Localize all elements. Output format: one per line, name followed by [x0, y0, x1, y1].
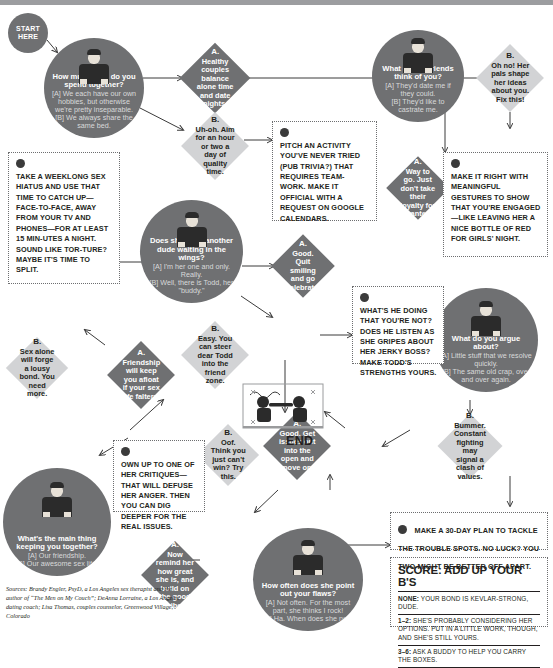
end-illustration	[237, 380, 329, 442]
tip-text: MAKE IT RIGHT WITH MEANINGFUL GESTURES T…	[451, 172, 541, 245]
outcome-text: Healthy couples balance alone time and d…	[194, 58, 236, 109]
illustration-mirror	[253, 532, 363, 575]
score-text: ASK A BUDDY TO HELP YOU CARRY THE BOXES.	[398, 648, 526, 663]
tip-pitch-activity: PITCH AN ACTIVITY YOU'VE NEVER TRIED (PU…	[272, 121, 377, 221]
outcome-text: Oh no! Her pals shape her ideas about yo…	[490, 62, 530, 104]
outcome-quit-smiling[interactable]: A. Good. Quit smiling and go celebrate.	[271, 234, 335, 298]
outcome-text: Oof. Think you just can't win? Try this.	[210, 439, 246, 481]
outcome-uh-oh[interactable]: B. Uh-oh. Aim for an hour or two a day o…	[181, 112, 249, 180]
illustration-thinking	[3, 472, 111, 517]
outcome-label: B.	[195, 115, 235, 124]
outcome-text: Good. Quit smiling and go celebrate.	[285, 250, 322, 292]
outcome-oh-no-pals[interactable]: B. Oh no! Her pals shape her ideas about…	[476, 44, 544, 112]
tip-text: OWN UP TO ONE OF HER CRITIQUES—THAT WILL…	[121, 460, 198, 533]
question-node-time-together[interactable]: How much time do you spend together? [A]…	[44, 38, 144, 138]
answer-a: [A] I'm her one and only. Really.	[146, 263, 237, 279]
outcome-text: Uh-oh. Aim for an hour or two a day of q…	[195, 126, 235, 177]
tip-30-day-plan: MAKE A 30-DAY PLAN TO TACKLE THE TROUBLE…	[390, 512, 548, 550]
answer-a: [A] We each have our own hobbies, but ot…	[50, 90, 138, 114]
question-text: What's the main thing keeping you togeth…	[9, 535, 105, 552]
question-node-argue-about[interactable]: What do you argue about? [A] Little stuf…	[434, 288, 538, 392]
tip-own-critiques: OWN UP TO ONE OF HER CRITIQUES—THAT WILL…	[113, 440, 205, 512]
answer-b: [B] Well, there is Todd, her "buddy."	[146, 279, 237, 295]
answer-b: [B] The same old crap, over and over aga…	[440, 368, 532, 384]
answer-b: [B] Ha. When does she not?	[259, 615, 357, 623]
outcome-label: A.	[400, 157, 437, 166]
answer-b: [B] They'd like to castrate me.	[378, 98, 458, 114]
sources-credit: Sources: Brandy Engler, PsyD, a Los Ange…	[6, 585, 181, 621]
tip-sex-hiatus: TAKE A WEEKLONG SEX HIATUS AND USE THAT …	[8, 152, 120, 284]
question-node-main-thing[interactable]: What's the main thing keeping you togeth…	[3, 468, 111, 576]
celebration-graphic	[237, 380, 329, 442]
outcome-label: B.	[195, 324, 235, 333]
question-text: What do you argue about?	[440, 335, 532, 352]
tip-text: WHAT'S HE DOING THAT YOU'RE NOT? DOES HE…	[360, 306, 437, 379]
end-label: END	[286, 434, 313, 448]
outcome-text: Easy. You can steer dear Todd into the f…	[195, 335, 235, 386]
answer-a: [A] Little stuff that we resolve quickly…	[440, 352, 532, 368]
answer-b: [B] We always share the same bed.	[50, 114, 138, 130]
top-crop-strip	[0, 0, 553, 9]
outcome-label: A.	[194, 47, 236, 56]
outcome-steer-todd[interactable]: B. Easy. You can steer dear Todd into th…	[181, 321, 249, 389]
illustration-eyes	[372, 34, 464, 73]
outcome-label: B.	[490, 51, 530, 60]
score-row: NONE: YOUR BOND IS KEVLAR-STRONG, DUDE.	[398, 591, 540, 614]
outcome-healthy-couples[interactable]: A. Healthy couples balance alone time an…	[180, 43, 251, 114]
outcome-way-to-go[interactable]: A. Way to go. Just don't take their loya…	[386, 156, 450, 220]
tip-make-it-right: MAKE IT RIGHT WITH MEANINGFUL GESTURES T…	[443, 152, 548, 257]
outcome-label: A.	[285, 239, 322, 248]
question-node-another-dude[interactable]: Does she have another dude waiting in th…	[140, 200, 243, 303]
bullet-icon	[360, 293, 369, 302]
question-text: How often does she point out your flaws?	[259, 582, 357, 599]
outcome-text: Bummer. Constant fighting may signal a c…	[451, 422, 489, 481]
score-text: SHE'S PROBABLY CONSIDERING HER OPTIONS. …	[398, 617, 538, 641]
outcome-text: Sex alone will forge a lousy bond. You n…	[19, 348, 55, 399]
question-node-point-out-flaws[interactable]: How often does she point out your flaws?…	[253, 528, 363, 631]
outcome-text: Friendship will keep you afloat if your …	[121, 359, 161, 401]
answer-a: [A] Not often. For the most part, she th…	[259, 599, 357, 615]
outcome-text: Way to go. Just don't take their loyalty…	[400, 168, 437, 219]
start-badge: START HERE	[8, 13, 48, 53]
outcome-label: A.	[121, 348, 161, 357]
question-node-friends-think[interactable]: What do her friends think of you? [A] Th…	[372, 30, 464, 122]
score-range: 1–2:	[398, 617, 411, 624]
score-range: 3–6:	[398, 648, 411, 655]
outcome-label: A.	[155, 540, 195, 549]
tip-text: PITCH AN ACTIVITY YOU'VE NEVER TRIED (PU…	[280, 141, 370, 224]
answer-a: [A] They'd date me if they could.	[378, 82, 458, 98]
tip-text: TAKE A WEEKLONG SEX HIATUS AND USE THAT …	[16, 172, 113, 276]
score-row: 1–2: SHE'S PROBABLY CONSIDERING HER OPTI…	[398, 614, 540, 645]
outcome-sex-alone[interactable]: B. Sex alone will forge a lousy bond. Yo…	[6, 337, 68, 399]
bullet-icon	[451, 159, 460, 168]
score-row: 3–6: ASK A BUDDY TO HELP YOU CARRY THE B…	[398, 645, 540, 668]
bullet-icon	[16, 159, 25, 168]
tip-todd-strengths: WHAT'S HE DOING THAT YOU'RE NOT? DOES HE…	[352, 286, 444, 364]
bullet-icon	[280, 128, 289, 137]
score-title: SCORE: ADD UP YOUR B'S	[398, 564, 540, 588]
score-box: SCORE: ADD UP YOUR B'S NONE: YOUR BOND I…	[390, 557, 548, 627]
bullet-icon	[398, 525, 407, 534]
outcome-friendship-afloat[interactable]: A. Friendship will keep you afloat if yo…	[107, 341, 175, 409]
outcome-label: B.	[19, 337, 55, 346]
bullet-icon	[121, 447, 130, 456]
outcome-bummer-fighting[interactable]: B. Bummer. Constant fighting may signal …	[437, 413, 502, 478]
outcome-label: B.	[451, 411, 489, 420]
answer-b: [B] Our awesome sex life.	[9, 560, 105, 568]
illustration-guy-axe	[44, 42, 144, 84]
illustration-couple	[140, 204, 243, 247]
illustration-arguing	[434, 292, 538, 336]
score-range: NONE:	[398, 595, 419, 602]
